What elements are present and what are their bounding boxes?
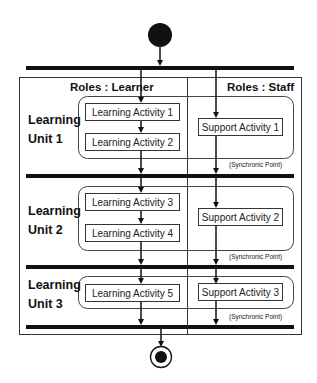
unit-1-label-line1: Learning: [28, 111, 81, 130]
unit-1-label-line2: Unit 1: [28, 130, 81, 149]
activity-learning-4[interactable]: Learning Activity 4: [85, 224, 180, 242]
sync-point-label-2: (Synchronic Point): [229, 253, 282, 260]
activity-learning-1[interactable]: Learning Activity 1: [85, 103, 180, 121]
unit-2-label-line1: Learning: [28, 202, 81, 221]
unit-3-label-line2: Unit 3: [28, 295, 81, 314]
activity-learning-2[interactable]: Learning Activity 2: [85, 133, 180, 151]
sync-bar-3: [26, 325, 294, 329]
unit-2-label: Learning Unit 2: [28, 202, 81, 240]
activity-support-1[interactable]: Support Activity 1: [198, 118, 283, 136]
activity-support-3[interactable]: Support Activity 3: [198, 283, 283, 301]
sync-point-label-3: (Synchronic Point): [229, 313, 282, 320]
swimlane-header-staff: Roles : Staff: [227, 81, 294, 93]
fork-bar: [26, 66, 294, 70]
unit-3-label: Learning Unit 3: [28, 276, 81, 314]
swimlane-header-learner: Roles : Learner: [70, 81, 154, 93]
activity-learning-3[interactable]: Learning Activity 3: [85, 193, 180, 211]
unit-2-label-line2: Unit 2: [28, 221, 81, 240]
sync-bar-2: [26, 265, 294, 269]
activity-support-2[interactable]: Support Activity 2: [198, 208, 283, 226]
final-node-icon: [151, 347, 172, 368]
initial-node-icon: [148, 23, 172, 47]
activity-learning-5[interactable]: Learning Activity 5: [85, 284, 180, 302]
unit-1-label: Learning Unit 1: [28, 111, 81, 149]
sync-point-label-1: (Synchronic Point): [229, 161, 282, 168]
sync-bar-1: [26, 174, 294, 178]
activity-diagram: Roles : Learner Roles : Staff Learning U…: [0, 0, 317, 383]
unit-3-label-line1: Learning: [28, 276, 81, 295]
